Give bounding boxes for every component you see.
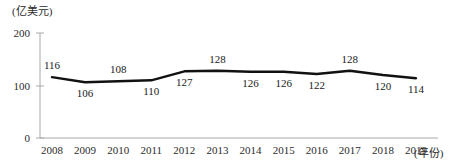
data-label-2015: 126 [269, 77, 299, 89]
data-label-2019: 114 [401, 83, 431, 95]
y-tick-label-200: 200 [2, 27, 30, 39]
data-label-2012: 127 [169, 76, 199, 88]
y-tick-label-0: 0 [2, 132, 30, 144]
x-tick-label-2013: 2013 [200, 144, 234, 156]
data-label-2010: 108 [103, 63, 133, 75]
y-tick-label-100: 100 [2, 80, 30, 92]
x-tick-label-2014: 2014 [234, 144, 268, 156]
x-tick-label-2011: 2011 [134, 144, 168, 156]
data-label-2009: 106 [70, 87, 100, 99]
data-label-2011: 110 [136, 85, 166, 97]
data-label-2018: 120 [368, 80, 398, 92]
x-tick-label-2010: 2010 [101, 144, 135, 156]
data-label-2016: 122 [302, 79, 332, 91]
data-label-2008: 116 [37, 59, 67, 71]
x-tick-label-2008: 2008 [35, 144, 69, 156]
x-tick-label-2018: 2018 [366, 144, 400, 156]
x-axis-title: (年份) [414, 144, 443, 160]
data-label-2014: 126 [236, 77, 266, 89]
data-label-2013: 128 [202, 53, 232, 65]
data-label-2017: 128 [335, 53, 365, 65]
x-tick-label-2017: 2017 [333, 144, 367, 156]
x-tick-label-2016: 2016 [300, 144, 334, 156]
x-tick-label-2009: 2009 [68, 144, 102, 156]
x-tick-label-2012: 2012 [167, 144, 201, 156]
line-chart: (亿美元) 200 100 0 200820092010201120122013… [0, 0, 464, 165]
x-tick-label-2015: 2015 [267, 144, 301, 156]
